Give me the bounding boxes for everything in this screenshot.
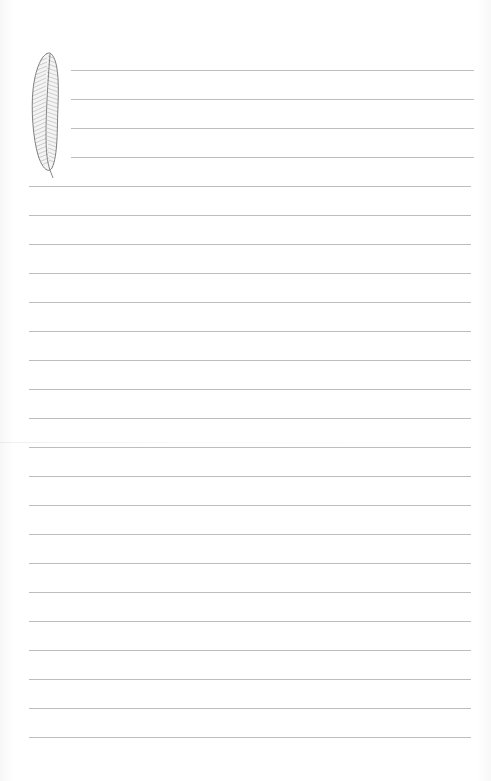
feather-icon bbox=[28, 50, 64, 180]
writing-line bbox=[29, 360, 471, 361]
writing-line bbox=[29, 737, 471, 738]
writing-line bbox=[29, 244, 471, 245]
writing-line bbox=[29, 476, 471, 477]
writing-line bbox=[29, 650, 471, 651]
writing-line bbox=[29, 186, 471, 187]
writing-line bbox=[29, 621, 471, 622]
writing-line-short bbox=[71, 70, 474, 71]
writing-line bbox=[29, 331, 471, 332]
writing-line bbox=[29, 534, 471, 535]
writing-line bbox=[29, 302, 471, 303]
paper-fold bbox=[0, 442, 491, 443]
writing-line-short bbox=[71, 157, 474, 158]
writing-line bbox=[29, 505, 471, 506]
writing-line bbox=[29, 592, 471, 593]
writing-line bbox=[29, 389, 471, 390]
writing-line bbox=[29, 563, 471, 564]
writing-line bbox=[29, 447, 471, 448]
writing-line bbox=[29, 215, 471, 216]
writing-line bbox=[29, 708, 471, 709]
writing-line bbox=[29, 273, 471, 274]
writing-line-short bbox=[71, 128, 474, 129]
writing-line bbox=[29, 418, 471, 419]
writing-line-short bbox=[71, 99, 474, 100]
lined-paper bbox=[0, 0, 491, 781]
writing-line bbox=[29, 679, 471, 680]
